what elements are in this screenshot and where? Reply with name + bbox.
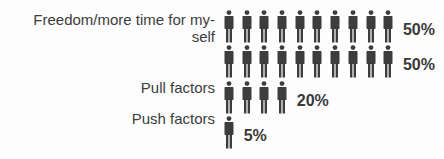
person-icon [330,45,340,78]
value-label: 20% [297,93,329,109]
person-icon [330,10,340,43]
person-icon [224,81,234,114]
person-icon [259,10,269,43]
person-icon [348,45,358,78]
person-icon [224,45,234,78]
person-icon [224,116,234,149]
person-icon [383,45,393,78]
person-icon [242,10,252,43]
icon-row-2: 50% [224,45,435,78]
person-icon [277,81,287,114]
person-icon [312,10,322,43]
label-line: self [33,28,215,45]
person-icon [312,45,322,78]
person-icon [383,10,393,43]
person-icon [259,45,269,78]
icon-row-3: 20% [224,81,329,114]
person-icon [366,10,376,43]
row-label-freedom: Freedom/more time for my- self [33,11,215,45]
person-icon [295,10,305,43]
person-icon [277,10,287,43]
person-icon [259,81,269,114]
person-icon [348,10,358,43]
person-icon [295,45,305,78]
person-icon [242,45,252,78]
person-icon [366,45,376,78]
value-label: 50% [403,22,435,38]
icon-row-1: 50% [224,10,435,43]
person-icon [242,81,252,114]
person-icon [277,45,287,78]
icon-row-4: 5% [224,116,267,149]
value-label: 50% [403,57,435,73]
label-line: Freedom/more time for my- [33,11,215,28]
person-icon [224,10,234,43]
value-label: 5% [244,128,267,144]
row-label-pull-factors: Pull factors [141,79,215,96]
row-label-push-factors: Push factors [132,110,215,127]
